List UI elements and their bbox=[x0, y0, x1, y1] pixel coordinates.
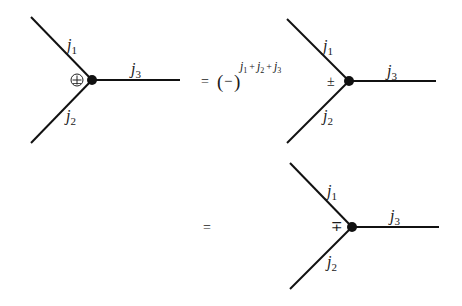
vertex-diagram-rhs-1: ± j1 j3 j2 bbox=[287, 19, 436, 143]
vertex-diagram-rhs-2: ∓ j1 j3 j2 bbox=[290, 163, 439, 289]
vertex-dot bbox=[347, 222, 357, 232]
exponent: j1+j2+j3 bbox=[238, 59, 281, 75]
label-j3: j3 bbox=[129, 60, 141, 80]
minus-sign: − bbox=[224, 73, 232, 89]
label-j2: j2 bbox=[64, 107, 76, 127]
label-j3: j3 bbox=[385, 62, 397, 82]
edge-j2 bbox=[290, 227, 352, 289]
diagram-canvas: j1 j3 j2 = ( − ) j1+j2+j3 ± j1 j3 j2 = ∓… bbox=[0, 0, 462, 306]
close-paren: ) bbox=[234, 71, 240, 93]
vertex-dot bbox=[344, 76, 354, 86]
equals-sign: = bbox=[201, 74, 209, 89]
edge-j2 bbox=[287, 81, 349, 143]
edge-j1 bbox=[31, 17, 92, 80]
edge-j1 bbox=[287, 19, 349, 81]
edge-j2 bbox=[31, 80, 92, 143]
label-j2: j2 bbox=[325, 253, 337, 273]
vertex-dot bbox=[87, 75, 97, 85]
label-j2: j2 bbox=[321, 107, 333, 127]
vertex-diagram-lhs: j1 j3 j2 bbox=[31, 17, 180, 143]
edge-j1 bbox=[290, 163, 352, 227]
circled-plus-icon bbox=[71, 74, 83, 86]
plus-minus-symbol: ± bbox=[327, 74, 335, 89]
open-paren: ( bbox=[217, 71, 223, 93]
minus-plus-symbol: ∓ bbox=[331, 219, 343, 234]
equals-sign-2: = bbox=[203, 220, 211, 235]
label-j3: j3 bbox=[388, 207, 400, 227]
phase-factor: = ( − ) j1+j2+j3 bbox=[201, 59, 281, 93]
label-j1: j1 bbox=[325, 182, 337, 202]
